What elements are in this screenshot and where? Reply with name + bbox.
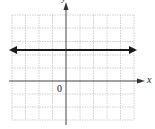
origin-label: 0	[57, 83, 62, 94]
graph	[0, 0, 155, 129]
grid	[12, 15, 134, 120]
x-axis	[9, 79, 145, 84]
y-axis	[64, 2, 69, 125]
y-axis-label: y	[62, 0, 66, 3]
horizontal-line	[9, 46, 137, 54]
x-axis-label: x	[147, 74, 151, 85]
